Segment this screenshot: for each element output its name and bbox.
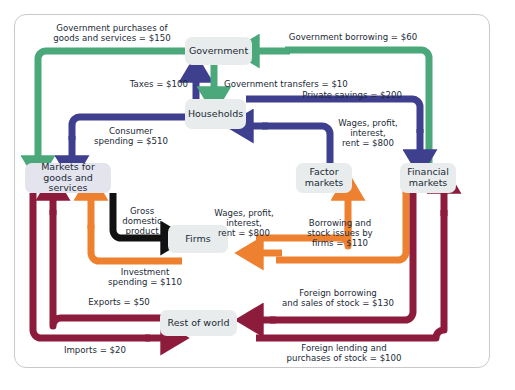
label-foreign-borrowing: Foreign borrowing and sales of stock = $… (268, 288, 408, 308)
label-gross-domestic-product: Gross domestic product (118, 206, 166, 236)
label-wages-from-firms: Wages, profit, interest, rent = $800 (206, 208, 282, 238)
node-rest-of-world[interactable]: Rest of world (160, 310, 237, 336)
label-government-purchases: Government purchases of goods and servic… (32, 23, 192, 43)
label-government-borrowing: Government borrowing = $60 (278, 32, 428, 42)
label-private-savings: Private savings = $200 (254, 90, 402, 100)
node-government[interactable]: Government (185, 37, 252, 65)
node-financial-markets[interactable]: Financial markets (400, 163, 456, 193)
node-government-label: Government (189, 46, 248, 57)
diagram-canvas: .a{fill:none;stroke-linecap:butt;stroke-… (0, 0, 515, 390)
node-rest-of-world-label: Rest of world (167, 318, 229, 329)
arrow-government-borrowing-riser (285, 50, 429, 181)
node-factor-markets[interactable]: Factor markets (296, 163, 352, 193)
label-wages-to-households: Wages, profit, interest, rent = $800 (330, 118, 406, 148)
label-borrowing-stock-issues: Borrowing and stock issues by firms = $1… (292, 218, 388, 248)
node-households-label: Households (188, 109, 243, 120)
node-markets-label: Markets for goods and services (29, 162, 107, 195)
label-investment-spending: Investment spending = $110 (98, 267, 192, 287)
label-taxes: Taxes = $100 (104, 79, 188, 89)
label-exports: Exports = $50 (76, 297, 162, 307)
label-imports: Imports = $20 (52, 345, 138, 355)
node-markets-for-goods-and-services[interactable]: Markets for goods and services (25, 163, 111, 193)
node-financial-markets-label: Financial markets (404, 167, 452, 189)
node-households[interactable]: Households (185, 99, 246, 129)
label-foreign-lending: Foreign lending and purchases of stock =… (268, 343, 420, 363)
flow-arrows-layer: .a{fill:none;stroke-linecap:butt;stroke-… (0, 0, 515, 390)
label-consumer-spending: Consumer spending = $510 (84, 126, 178, 146)
node-factor-markets-label: Factor markets (300, 167, 348, 189)
label-government-transfers: Government transfers = $10 (224, 79, 364, 89)
arrow-wages-to-households-run (262, 126, 330, 163)
